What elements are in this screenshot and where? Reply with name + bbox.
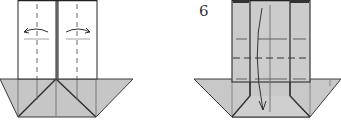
top-corner-dark-right (290, 0, 309, 3)
step-5-figure (0, 0, 133, 117)
origami-diagram (0, 0, 341, 127)
base-trapezoid (0, 79, 133, 117)
right-flap (58, 0, 97, 79)
step-number: 6 (199, 2, 209, 20)
top-corner-dark-left (233, 0, 249, 3)
step-6-figure (194, 0, 341, 117)
tall-body (232, 0, 310, 82)
